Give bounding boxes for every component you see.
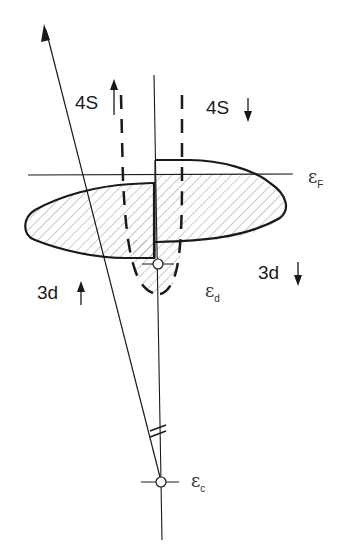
3d-spin-down-band-occupied — [155, 175, 285, 242]
3d-spin-up-band — [25, 183, 154, 258]
label-4s-spin-down: 4S — [206, 97, 229, 119]
spin-down-arrow-icon — [294, 275, 302, 286]
label-fermi-energy: εF — [308, 166, 323, 190]
fermi-level-line — [28, 174, 293, 175]
spin-down-arrow-icon — [244, 111, 252, 122]
label-3d-spin-up: 3d — [37, 282, 58, 304]
spin-up-arrow-icon — [110, 79, 118, 90]
label-d-level-energy: εd — [205, 280, 220, 304]
spin-up-arrow-icon — [77, 281, 85, 292]
label-4s-spin-up: 4S — [75, 92, 98, 114]
band-diagram — [0, 0, 341, 560]
core-level-marker — [156, 477, 166, 487]
d-level-marker — [153, 259, 163, 269]
label-core-level-energy: εc — [191, 470, 205, 494]
arrow-head-icon — [41, 24, 50, 42]
label-3d-spin-down: 3d — [258, 262, 279, 284]
